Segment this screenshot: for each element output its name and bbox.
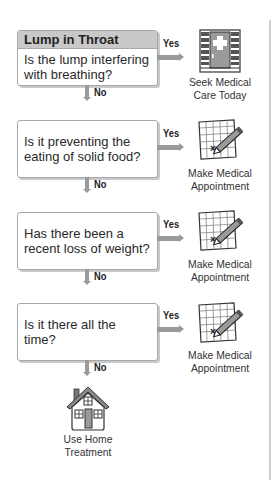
no-arrow [85,177,89,189]
outcome-line: Care Today [188,89,253,102]
house-icon [65,385,111,431]
outcome-make-appointment: Make Medical Appointment [188,258,253,284]
question-text: Is the lump interfering with breathing? [18,49,157,85]
yes-arrow [157,327,179,332]
calendar-pencil-icon: × [196,119,248,161]
hospital-icon [199,29,241,73]
outcome-line: Appointment [188,180,253,193]
no-label: No [94,86,106,98]
question-box-all-the-time: Is it there all the time? [17,303,158,361]
outcome-seek-care-today: Seek Medical Care Today [188,76,253,102]
question-box-weight-loss: Has there been a recent loss of weight? [17,212,158,270]
outcome-use-home-treatment: Use Home Treatment [56,433,121,459]
question-line: recent loss of weight? [24,241,150,256]
no-label: No [94,178,106,190]
question-text: Has there been a recent loss of weight? [18,223,156,259]
yes-arrow [157,55,179,60]
question-line: eating of solid food? [24,149,140,164]
no-arrow [85,85,89,97]
page-divider-line [269,20,271,480]
outcome-line: Make Medical [188,167,253,180]
outcome-line: Appointment [188,271,253,284]
question-text: Is it there all the time? [18,314,157,350]
yes-label: Yes [163,127,179,139]
outcome-line: Seek Medical [188,76,253,89]
calendar-pencil-icon: × [196,302,248,344]
question-line: with breathing? [24,67,151,82]
no-label: No [94,361,106,373]
question-line: Is the lump interfering [24,52,151,67]
question-text: Is it preventing the eating of solid foo… [18,131,146,167]
flowchart-title: Lump in Throat [18,31,157,49]
calendar-pencil-icon: × [196,210,248,252]
question-box-breathing: Lump in Throat Is the lump interfering w… [17,30,158,86]
yes-label: Yes [163,218,179,230]
no-label: No [94,270,106,282]
no-arrow [85,269,89,281]
yes-arrow [157,236,179,241]
no-arrow [85,360,89,372]
outcome-line: Appointment [188,362,253,375]
outcome-make-appointment: Make Medical Appointment [188,349,253,375]
yes-arrow [157,145,179,150]
yes-label: Yes [163,309,179,321]
question-box-solid-food: Is it preventing the eating of solid foo… [17,120,158,178]
question-line: Is it preventing the [24,134,140,149]
outcome-line: Make Medical [188,258,253,271]
outcome-line: Treatment [56,446,121,459]
question-line: Is it there all the time? [24,317,151,347]
outcome-make-appointment: Make Medical Appointment [188,167,253,193]
yes-label: Yes [163,37,179,49]
outcome-line: Make Medical [188,349,253,362]
outcome-line: Use Home [56,433,121,446]
question-line: Has there been a [24,226,150,241]
